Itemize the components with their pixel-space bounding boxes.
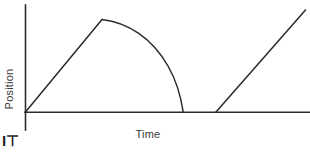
curve-second-linear-rise [216, 10, 306, 112]
curve-linear-rise [26, 20, 103, 113]
y-axis-label: Position [3, 59, 15, 119]
x-axis-label: Time [126, 128, 170, 140]
curve-parabolic-fall [102, 20, 183, 113]
bottom-left-cropped-glyph-artifact: I⊤ [2, 135, 24, 153]
position-time-graph-figure: Position Time I⊤ [0, 0, 310, 153]
